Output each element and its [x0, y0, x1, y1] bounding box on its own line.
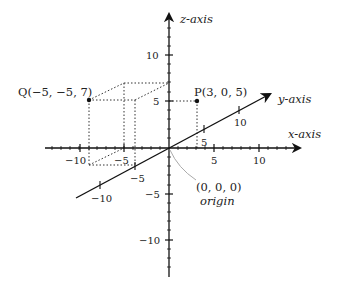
- y-tick-neg10: −10: [91, 193, 112, 204]
- origin-coords-label: (0, 0, 0): [196, 180, 242, 194]
- y-tick-5: 5: [201, 137, 207, 148]
- point-p-marker: [195, 99, 199, 103]
- x-tick-neg5: −5: [114, 155, 129, 166]
- z-tick-10: 10: [146, 50, 159, 61]
- y-axis-label: y-axis: [277, 92, 311, 106]
- z-axis-label: z-axis: [179, 12, 213, 26]
- origin-leader-line: [170, 150, 196, 180]
- coordinate-diagram: z-axis y-axis x-axis Q(−5, −5, 7) P(3, 0…: [0, 0, 339, 290]
- x-tick-5: 5: [211, 155, 217, 166]
- z-tick-neg5: −5: [145, 189, 160, 200]
- z-tick-neg10: −10: [139, 235, 160, 246]
- x-axis-label: x-axis: [288, 127, 321, 141]
- z-tick-5: 5: [153, 96, 159, 107]
- point-q-label: Q(−5, −5, 7): [18, 85, 92, 99]
- y-tick-10: 10: [234, 117, 247, 128]
- y-tick-neg5: −5: [130, 173, 145, 184]
- origin-name-label: origin: [200, 194, 235, 208]
- x-tick-10: 10: [253, 155, 266, 166]
- x-tick-neg10: −10: [65, 155, 86, 166]
- point-p-label: P(3, 0, 5): [194, 85, 247, 99]
